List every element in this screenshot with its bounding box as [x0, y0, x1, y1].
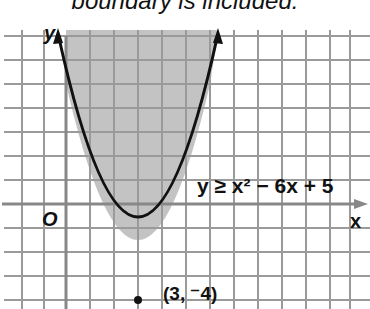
vertex-label: (3, ⁻4) [163, 282, 217, 305]
x-axis-label: x [350, 210, 361, 233]
coordinate-graph [0, 0, 370, 309]
vertex-point [134, 296, 142, 304]
grid [4, 30, 370, 309]
x-axis-arrow-icon [354, 199, 368, 209]
origin-label: O [42, 208, 58, 231]
inequality-label: y ≥ x² − 6x + 5 [197, 174, 333, 198]
shaded-solution-region [66, 30, 219, 240]
y-axis-label: y [44, 22, 55, 45]
